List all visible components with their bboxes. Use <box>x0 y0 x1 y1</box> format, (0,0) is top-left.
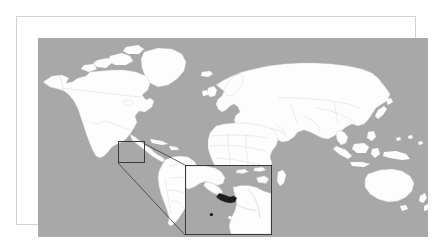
map-frame-border <box>16 16 416 225</box>
inset-marker-dark[interactable] <box>210 213 213 216</box>
landmass-ireland <box>202 90 208 96</box>
world-map-plate <box>38 38 428 237</box>
figure-root: Grey world map with white landmasses; a … <box>0 0 432 241</box>
detail-source-rectangle[interactable] <box>118 141 145 163</box>
inset-map-svg <box>186 166 271 234</box>
magnified-inset-panel[interactable] <box>185 165 272 235</box>
inset-landmass-colombia <box>229 185 271 234</box>
inset-marker-light[interactable] <box>228 216 231 219</box>
